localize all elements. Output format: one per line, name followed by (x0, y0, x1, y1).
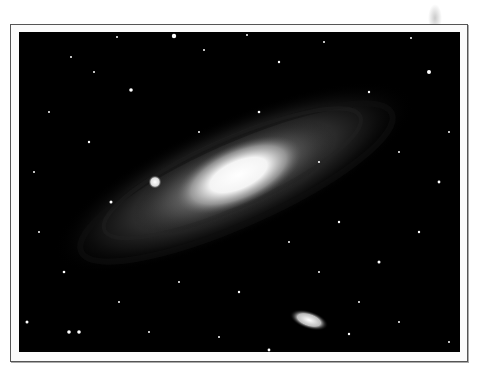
galaxy-photo (19, 32, 460, 352)
galaxy-image (19, 32, 460, 352)
